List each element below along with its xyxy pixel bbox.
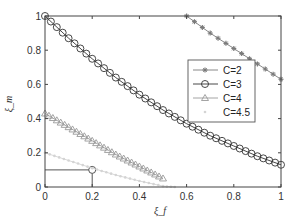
y-tick-label: 0.8	[27, 45, 41, 56]
x-tick-label: 0.2	[85, 191, 99, 202]
x-tick-label: 0	[42, 191, 48, 202]
y-tick-label: 0.4	[27, 113, 41, 124]
x-axis-label: ξ_f	[154, 205, 167, 217]
y-tick-label: 1	[35, 11, 41, 22]
y-tick-label: 0	[35, 182, 41, 193]
x-tick-label: 0.6	[180, 191, 194, 202]
chart: 00.20.40.60.81 00.20.40.60.81 ξ_f ξ_m C=…	[0, 0, 297, 224]
legend-label: C=4.5	[223, 107, 250, 118]
x-tick-label: 1	[278, 191, 284, 202]
legend-label: C=2	[223, 65, 242, 76]
y-tick-label: 0.6	[27, 79, 41, 90]
legend-label: C=4	[223, 93, 242, 104]
y-tick-label: 0.2	[27, 147, 41, 158]
legend-label: C=3	[223, 79, 242, 90]
legend: C=2C=3C=4C=4.5	[188, 60, 255, 122]
y-axis-label: ξ_m	[3, 96, 15, 113]
x-tick-label: 0.4	[132, 191, 146, 202]
x-tick-label: 0.8	[227, 191, 241, 202]
reference-lines	[45, 166, 96, 187]
